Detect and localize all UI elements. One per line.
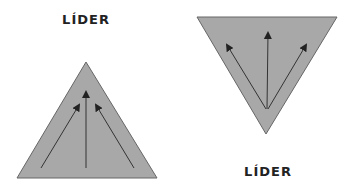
leadership-diagram: [0, 0, 349, 190]
upward-triangle: [17, 62, 157, 178]
downward-triangle: [197, 17, 337, 134]
